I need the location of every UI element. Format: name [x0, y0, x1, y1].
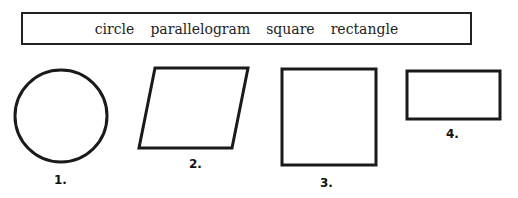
- shape-parallelogram: [139, 68, 248, 148]
- label-circle: 1.: [54, 173, 67, 187]
- label-parallelogram: 2.: [189, 157, 202, 171]
- shape-circle: [15, 70, 107, 162]
- shape-square: [282, 69, 376, 165]
- label-square: 3.: [320, 176, 333, 190]
- shapes-canvas: [0, 0, 518, 198]
- shape-rectangle: [407, 71, 500, 119]
- label-rectangle: 4.: [446, 127, 459, 141]
